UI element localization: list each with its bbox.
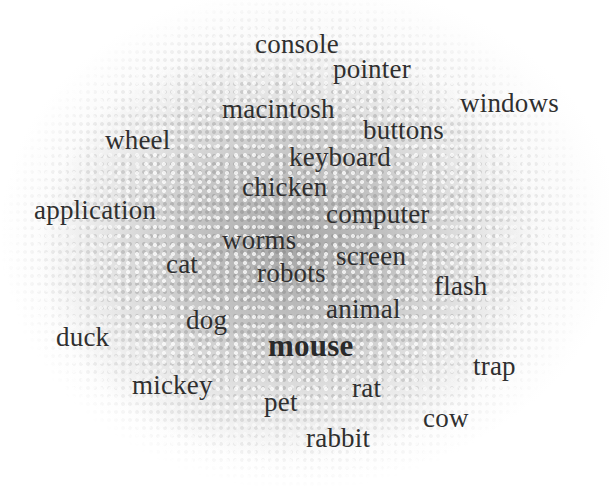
word-label: mickey bbox=[132, 372, 213, 399]
word-label: duck bbox=[56, 324, 109, 351]
word-label: computer bbox=[326, 201, 430, 228]
word-label: chicken bbox=[242, 174, 327, 201]
focus-word: mouse bbox=[268, 330, 353, 361]
word-label: console bbox=[255, 31, 339, 58]
word-label: trap bbox=[473, 353, 516, 380]
word-label: macintosh bbox=[222, 96, 335, 123]
word-label: application bbox=[34, 197, 156, 224]
word-label: pet bbox=[264, 389, 298, 416]
word-label: rabbit bbox=[306, 425, 370, 452]
word-label: rat bbox=[352, 375, 381, 402]
word-label: flash bbox=[434, 273, 487, 300]
word-label: robots bbox=[257, 260, 326, 287]
word-label: wheel bbox=[105, 127, 170, 154]
speckle-texture bbox=[0, 0, 609, 486]
word-label: screen bbox=[336, 243, 406, 270]
word-label: cow bbox=[423, 405, 469, 432]
word-label: windows bbox=[460, 90, 559, 117]
word-label: dog bbox=[186, 307, 227, 334]
word-label: keyboard bbox=[289, 144, 391, 171]
word-label: buttons bbox=[363, 117, 444, 144]
word-cloud-canvas: consolepointerwindowsmacintoshbuttonswhe… bbox=[0, 0, 609, 486]
word-label: animal bbox=[326, 296, 401, 323]
word-label: worms bbox=[222, 227, 297, 254]
word-label: pointer bbox=[333, 56, 411, 83]
word-label: cat bbox=[166, 251, 198, 278]
